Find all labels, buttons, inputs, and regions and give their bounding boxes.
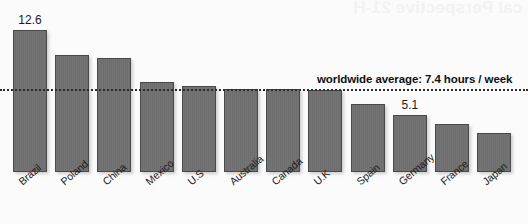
bar-poland[interactable]: [55, 55, 89, 172]
worldwide-average-line: [0, 89, 528, 91]
value-label-germany: 5.1: [387, 98, 433, 112]
plot-area: worldwide average: 7.4 hours / week 12.6…: [0, 0, 528, 224]
bar-us[interactable]: [182, 86, 216, 172]
bar-chart: cal Perspective 21-H worldwide average: …: [0, 0, 528, 224]
value-label-brazil: 12.6: [7, 13, 53, 27]
bar-uk[interactable]: [308, 90, 342, 172]
bar-spain[interactable]: [351, 104, 385, 172]
bar-china[interactable]: [97, 58, 131, 172]
worldwide-average-label: worldwide average: 7.4 hours / week: [317, 73, 512, 85]
bar-brazil[interactable]: [13, 30, 47, 172]
